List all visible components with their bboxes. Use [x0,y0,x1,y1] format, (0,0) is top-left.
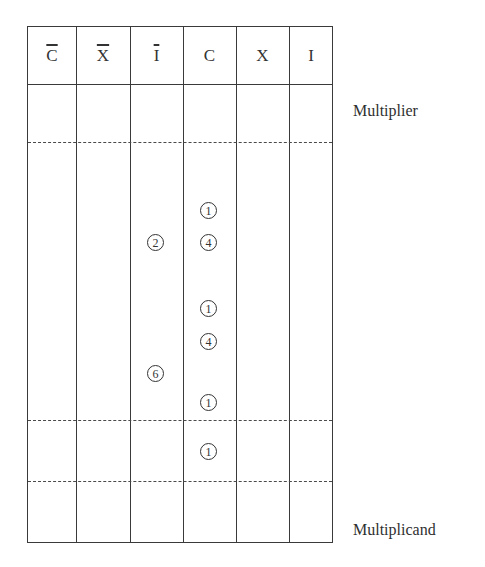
counter: 1 [200,202,217,219]
multiplier-divider [28,142,332,143]
multiplier-label: Multiplier [353,102,418,120]
counter: 4 [200,333,217,350]
counter: 2 [147,234,164,251]
column-divider [289,27,290,542]
column-divider [130,27,131,542]
counter: 6 [147,365,164,382]
multiplicand-label: Multiplicand [353,521,436,539]
product-divider [28,420,332,421]
counter: 1 [200,300,217,317]
counter: 1 [200,443,217,460]
column-divider [236,27,237,542]
column-header-x-bar: X [76,27,130,85]
column-header-c: C [183,27,236,85]
column-divider [76,27,77,542]
column-header-i-bar: I [130,27,183,85]
counter: 1 [200,394,217,411]
counter: 4 [200,234,217,251]
column-header-c-bar: C [28,27,76,85]
column-header-x: X [236,27,289,85]
column-header-i: I [289,27,333,85]
counting-board: C X I C X I 1 2 4 1 4 6 1 1 [27,26,333,543]
multiplicand-divider [28,481,332,482]
column-divider [183,27,184,542]
header-divider [28,84,332,85]
